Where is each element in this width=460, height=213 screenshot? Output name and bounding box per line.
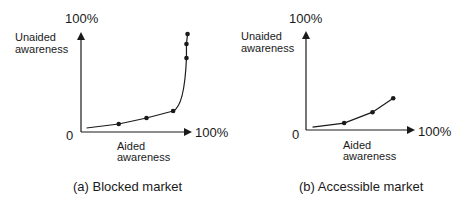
data-point-marker <box>370 110 375 115</box>
panel-a-caption: (a) Blocked market <box>73 180 182 193</box>
panel-b-y-max-label: 100% <box>289 12 322 25</box>
data-point-marker <box>184 42 189 47</box>
data-point-marker <box>184 56 189 61</box>
panel-a-x-axis-label-2: awareness <box>117 152 170 163</box>
data-point-marker <box>342 121 347 126</box>
panel-b-curve <box>313 96 396 127</box>
panel-b-caption: (b) Accessible market <box>299 180 423 193</box>
panel-a-y-axis-label-2: awareness <box>15 44 68 55</box>
panel-a-y-max-label: 100% <box>65 12 98 25</box>
data-point-marker <box>116 122 121 127</box>
panel-a-y-axis-label-1: Unaided <box>15 32 56 43</box>
panel-b-y-axis-label-2: awareness <box>241 43 294 54</box>
series-line <box>87 34 188 128</box>
series-line <box>313 98 394 127</box>
panel-a-x-max-label: 100% <box>195 126 228 139</box>
panel-b-origin-label: 0 <box>292 128 299 141</box>
panel-a-axes <box>81 34 190 132</box>
panel-a-curve <box>87 32 190 128</box>
panel-a-origin-label: 0 <box>66 129 73 142</box>
panel-b-axes <box>306 33 413 130</box>
data-point-marker <box>144 116 149 121</box>
panel-b-y-axis-label-1: Unaided <box>241 31 282 42</box>
panel-b-x-axis-label-2: awareness <box>343 151 396 162</box>
panel-b-x-max-label: 100% <box>418 125 451 138</box>
data-point-marker <box>391 96 396 101</box>
data-point-marker <box>185 32 190 37</box>
data-point-marker <box>171 109 176 114</box>
